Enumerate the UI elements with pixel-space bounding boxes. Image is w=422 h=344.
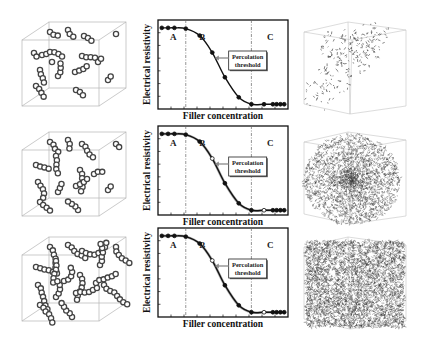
resistivity-chart-row-3: Electrical resistivityFiller concentrati… [140,218,290,333]
x-axis-label: Filler concentration [183,319,264,329]
data-point [210,157,214,161]
svg-text:threshold: threshold [235,167,261,174]
data-point [184,27,188,31]
network-render [290,120,422,230]
render-3d-row-2 [290,120,422,230]
data-point [271,208,275,212]
data-point [262,102,266,106]
conductive-network [303,239,406,330]
percolation-threshold-callout: Percolationthreshold [215,259,268,279]
data-point [173,26,177,30]
network-render [290,225,422,340]
data-point [282,208,286,212]
data-point [198,140,202,144]
render-3d-row-1 [290,10,422,120]
data-point [166,132,170,136]
chart: Electrical resistivityFiller concentrati… [140,10,290,125]
data-point [198,242,202,246]
y-axis-label: Electrical resistivity [142,130,152,211]
data-point [184,133,188,137]
data-point [275,310,279,314]
data-point [223,75,227,79]
filler-particles [33,240,132,325]
data-point [275,102,279,106]
data-point [282,102,286,106]
particle-schematic [0,120,140,230]
render-box-outline [304,22,406,114]
svg-text:threshold: threshold [235,61,261,68]
particle-schematic [0,10,140,120]
data-point [237,303,241,307]
data-point [262,310,266,314]
schematic-cube-row-2 [0,120,140,230]
region-label-c: C [267,138,274,148]
filler-particles [31,27,118,99]
data-point [173,234,177,238]
svg-text:Percolation: Percolation [232,261,264,268]
data-point [262,208,266,212]
data-point [279,208,283,212]
schematic-cube-row-3 [0,225,140,340]
svg-text:Percolation: Percolation [232,159,264,166]
chart: Electrical resistivityFiller concentrati… [140,218,290,333]
region-label-c: C [267,32,274,42]
data-point [160,234,164,238]
data-point [166,26,170,30]
filler-particles [33,137,121,213]
data-point [249,310,253,314]
conductive-network [302,133,402,225]
region-label-a: A [170,240,177,250]
percolation-threshold-callout: Percolationthreshold [215,51,268,71]
data-point [279,310,283,314]
resistivity-chart-row-2: Electrical resistivityFiller concentrati… [140,116,290,231]
percolation-threshold-callout: Percolationthreshold [215,157,268,177]
data-point [184,235,188,239]
data-point [198,34,202,38]
region-label-c: C [267,240,274,250]
schematic-cube-row-1 [0,10,140,120]
region-label-a: A [170,32,177,42]
svg-text:threshold: threshold [235,269,261,276]
data-point [173,132,177,136]
y-axis-label: Electrical resistivity [142,232,152,313]
chart: Electrical resistivityFiller concentrati… [140,116,290,231]
data-point [237,95,241,99]
data-point [271,102,275,106]
data-point [210,51,214,55]
data-point [279,102,283,106]
data-point [271,310,275,314]
particle-schematic [0,225,140,340]
data-point [210,259,214,263]
data-point [166,234,170,238]
data-point [249,102,253,106]
data-point [249,208,253,212]
data-point [223,283,227,287]
data-point [282,310,286,314]
data-point [160,132,164,136]
svg-text:Percolation: Percolation [232,53,264,60]
region-label-a: A [170,138,177,148]
resistivity-chart-row-1: Electrical resistivityFiller concentrati… [140,10,290,125]
data-point [223,181,227,185]
data-point [160,26,164,30]
y-axis-label: Electrical resistivity [142,24,152,105]
network-render [290,10,422,120]
data-point [275,208,279,212]
data-point [237,201,241,205]
render-3d-row-3 [290,225,422,340]
